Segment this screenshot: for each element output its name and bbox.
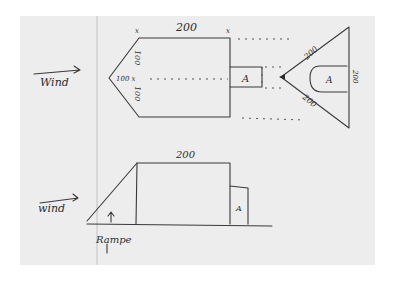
side-view: wind 200 A Rampe [38,149,272,253]
nose-label: 100 x [116,75,136,83]
guide-bottom [242,118,305,120]
tail-apex-mark [279,74,285,80]
tail-base-label: 200 [351,69,359,84]
sketch-canvas: Wind x x 200 100 100 100 x A A 200 200 2… [0,0,394,282]
tail-module-label: A [325,75,333,85]
side-module-a-label: A [235,204,242,213]
wind-side-label: wind [38,202,65,215]
ramp-arrow-icon [108,212,114,222]
side-top-length-label: 200 [175,149,196,160]
corner-mark-left: x [135,27,139,35]
left-lower-label: 100 [133,86,142,101]
top-view: Wind x x 200 100 100 100 x A A 200 200 2… [34,21,359,128]
tail-lower-label: 200 [300,92,318,109]
tail-triangle-outline [281,27,349,128]
ground-line [87,224,272,226]
wind-arrow-icon [34,66,80,74]
wind-label: Wind [40,76,69,89]
side-body-front [136,163,137,224]
corner-mark-right: x [226,27,230,35]
top-length-label: 200 [175,21,197,34]
left-upper-label: 100 [133,50,142,65]
module-a-label: A [241,73,249,84]
ramp-label: Rampe [95,234,132,245]
